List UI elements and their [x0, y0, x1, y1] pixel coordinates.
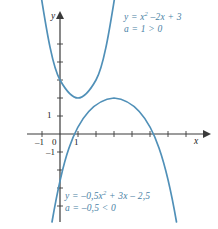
parabola-comparison-figure: y x –1 0 1 1 –1 y = x2 –2x + 3 a = 1 > 0…: [0, 0, 218, 229]
equation-label-downward: y = –0,5x2 + 3x – 2,5: [65, 189, 150, 201]
coefficient-label-downward: a = –0,5 < 0: [65, 203, 116, 213]
equation-downward-prefix: y = –0,5x: [65, 191, 103, 201]
coefficient-downward-text: a = –0,5 < 0: [65, 203, 116, 213]
x-tick-label-one: 1: [74, 137, 79, 147]
equation-upward-prefix: y = x: [124, 12, 145, 22]
x-tick-label-zero: 0: [52, 137, 57, 147]
y-tick-label-one: 1: [47, 110, 52, 120]
coefficient-upward-text: a = 1 > 0: [124, 24, 162, 34]
equation-upward-suffix: –2x + 3: [148, 12, 182, 22]
axis-label-x: x: [194, 136, 198, 146]
y-tick-label-negative-one: –1: [46, 147, 55, 157]
x-tick-label-negative-one: –1: [35, 137, 44, 147]
equation-downward-suffix: + 3x – 2,5: [106, 191, 150, 201]
axis-label-y: y: [51, 11, 55, 21]
coefficient-label-upward: a = 1 > 0: [124, 24, 162, 34]
equation-label-upward: y = x2 –2x + 3: [124, 10, 182, 22]
